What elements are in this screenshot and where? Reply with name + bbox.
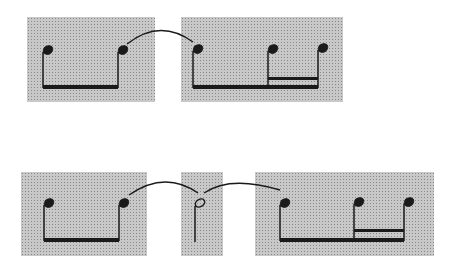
notation-overlay bbox=[0, 0, 456, 268]
primary-beam bbox=[193, 85, 318, 89]
secondary-beam bbox=[268, 77, 318, 80]
note-group-bottom-middle bbox=[194, 197, 206, 242]
beam bbox=[43, 85, 118, 89]
beam bbox=[44, 238, 119, 242]
tie-arc-right bbox=[204, 183, 280, 193]
note-group-top-right bbox=[192, 42, 330, 89]
tie-arc-left bbox=[129, 182, 198, 195]
tie-arc bbox=[127, 30, 193, 44]
note-group-bottom-right bbox=[279, 196, 416, 242]
primary-beam bbox=[280, 238, 404, 242]
secondary-beam bbox=[354, 229, 404, 232]
note-group-top-left bbox=[42, 44, 130, 89]
note-group-bottom-left bbox=[43, 197, 131, 242]
